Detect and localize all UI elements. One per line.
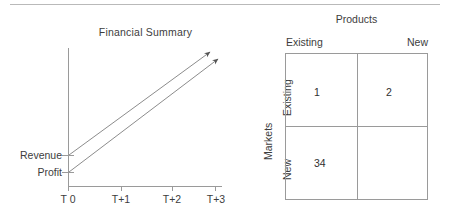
- y-axis-label-revenue: Revenue: [4, 149, 62, 161]
- matrix-cell-existing-existing: 1: [314, 86, 320, 98]
- revenue-series-line: [69, 52, 210, 155]
- x-axis-label-t0: T 0: [48, 193, 88, 205]
- profit-series-line: [69, 59, 218, 172]
- matrix-row-axis-title: Markets: [262, 123, 274, 160]
- matrix-column-header-existing: Existing: [286, 36, 323, 48]
- x-axis-label-t2: T+2: [152, 193, 192, 205]
- x-axis-label-t3: T+3: [196, 193, 236, 205]
- matrix-column-axis-title: Products: [285, 13, 428, 25]
- matrix-cell-existing-new: 2: [386, 86, 392, 98]
- diagram-canvas: Financial Summary Revenue Profit T 0 T+1…: [0, 0, 454, 219]
- y-axis-label-profit: Profit: [4, 166, 62, 178]
- matrix-cell-new-existing: 34: [314, 157, 326, 169]
- x-axis-label-t1: T+1: [101, 193, 141, 205]
- matrix-column-header-new: New: [407, 36, 428, 48]
- matrix-horizontal-divider: [285, 126, 428, 127]
